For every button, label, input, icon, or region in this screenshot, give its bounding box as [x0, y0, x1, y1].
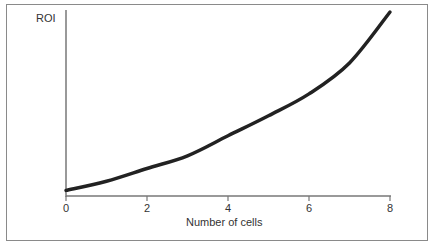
x-tick-label-8: 8	[387, 202, 393, 214]
x-axis-label: Number of cells	[186, 216, 262, 228]
y-axis-label: ROI	[36, 12, 56, 24]
x-tick-label-0: 0	[63, 202, 69, 214]
x-tick-label-4: 4	[225, 202, 231, 214]
roi-curve	[66, 12, 390, 190]
x-tick-label-6: 6	[306, 202, 312, 214]
x-tick-label-2: 2	[144, 202, 150, 214]
